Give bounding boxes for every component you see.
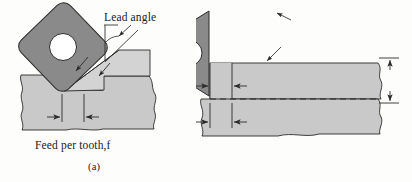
chip-thickness-leader-b bbox=[267, 47, 281, 61]
feed-per-tooth-text: Feed per tooth, bbox=[35, 139, 107, 151]
insert-leader-b bbox=[277, 13, 291, 20]
panel-b-drawing bbox=[196, 0, 412, 182]
feed-per-tooth-label-a: Feed per tooth,f bbox=[35, 140, 111, 152]
lead-angle-label: Lead angle bbox=[104, 12, 156, 24]
workpiece-upper-b bbox=[210, 63, 382, 99]
depth-of-cut-dimension-b bbox=[379, 58, 399, 103]
feed-symbol-a: f bbox=[107, 139, 111, 151]
caption-a: (a) bbox=[88, 162, 100, 173]
panel-a: Lead angle Feed per tooth,f (a) bbox=[0, 0, 200, 182]
lead-angle-leader-a bbox=[119, 25, 131, 36]
panel-b: Insert Undeformed chip thickness Depth o… bbox=[196, 0, 412, 182]
undeformed-chip-column-b bbox=[210, 63, 232, 99]
insert-hole-a bbox=[50, 34, 77, 61]
workpiece-body-b bbox=[201, 99, 382, 136]
panel-a-drawing bbox=[0, 0, 200, 182]
figure-canvas: Lead angle Feed per tooth,f (a) bbox=[0, 0, 412, 182]
